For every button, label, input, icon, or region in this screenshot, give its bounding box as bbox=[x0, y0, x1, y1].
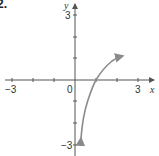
y-tick-label-neg3: −3 bbox=[61, 141, 72, 151]
plot-area bbox=[0, 0, 159, 156]
x-axis-label: x bbox=[150, 85, 154, 95]
x-tick-label-3: 3 bbox=[135, 85, 141, 95]
origin-label: 0 bbox=[67, 85, 73, 95]
x-tick-label-neg3: −3 bbox=[5, 85, 16, 95]
curve-line bbox=[81, 56, 123, 138]
y-tick-label-3: 3 bbox=[65, 11, 71, 21]
graph-figure: 2. bbox=[0, 0, 159, 156]
